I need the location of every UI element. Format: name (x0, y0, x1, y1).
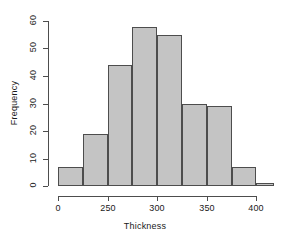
histogram-bar (257, 184, 274, 186)
y-tick-label: 20 (28, 120, 38, 140)
y-tick-label: 0 (28, 175, 38, 195)
y-tick-marks (43, 22, 48, 187)
y-axis-title: Frequency (9, 63, 19, 143)
y-tick-label: 10 (28, 148, 38, 168)
histogram-bar (158, 35, 182, 185)
y-tick-label: 60 (28, 10, 38, 30)
histogram-bar (109, 66, 132, 186)
x-axis-title: Thickness (0, 221, 290, 231)
x-tick-label: 300 (149, 203, 165, 213)
bars-group (59, 27, 274, 186)
x-tick-label: 250 (100, 203, 116, 213)
x-tick-marks (59, 196, 257, 201)
histogram-bar (84, 134, 108, 185)
histogram-bar (59, 167, 83, 185)
x-tick-label: 400 (248, 203, 264, 213)
histogram-bar (233, 167, 256, 185)
histogram-bar (183, 104, 207, 186)
histogram-plot: 0250300350400 0102030405060 Thickness Fr… (0, 0, 290, 242)
y-tick-label: 50 (28, 37, 38, 57)
histogram-bar (208, 107, 232, 186)
histogram-bar (133, 27, 157, 186)
y-tick-label: 30 (28, 93, 38, 113)
chart-canvas (0, 0, 290, 242)
y-tick-label: 40 (28, 65, 38, 85)
x-tick-label: 0 (55, 203, 60, 213)
x-tick-label: 350 (199, 203, 215, 213)
